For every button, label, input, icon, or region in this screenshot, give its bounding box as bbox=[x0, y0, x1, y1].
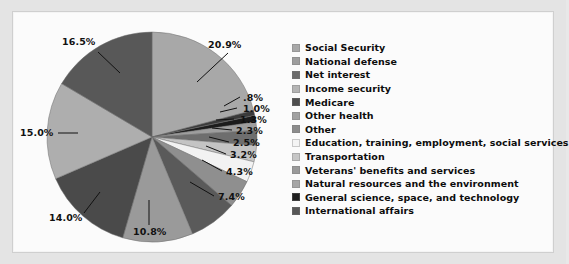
legend-swatch-icon bbox=[292, 85, 300, 93]
legend-swatch-icon bbox=[292, 153, 300, 161]
legend-item-label: International affairs bbox=[305, 205, 414, 216]
legend-item-label: Education, training, employment, social … bbox=[305, 137, 569, 148]
legend-item-label: Social Security bbox=[305, 42, 385, 53]
pie-slice-group bbox=[47, 32, 257, 242]
legend-item-label: Net interest bbox=[305, 69, 370, 80]
legend-swatch-icon bbox=[292, 57, 300, 65]
legend-swatch-icon bbox=[292, 139, 300, 147]
legend-swatch-icon bbox=[292, 193, 300, 201]
pie-label-other-health: 7.4% bbox=[218, 191, 245, 202]
pie-label-general-science: 1.0% bbox=[243, 103, 270, 114]
pie-label-net-interest: 15.0% bbox=[20, 127, 53, 138]
legend-item[interactable]: Education, training, employment, social … bbox=[292, 136, 542, 150]
legend-item[interactable]: Veterans' benefits and services bbox=[292, 163, 542, 177]
legend-item[interactable]: National defense bbox=[292, 55, 542, 69]
legend-item[interactable]: Net interest bbox=[292, 68, 542, 82]
pie-label-international-affairs: .8% bbox=[243, 92, 263, 103]
legend-item-label: Other bbox=[305, 124, 336, 135]
legend-item[interactable]: Transportation bbox=[292, 150, 542, 164]
legend-item[interactable]: Social Security bbox=[292, 41, 542, 55]
legend-item-label: Medicare bbox=[305, 97, 355, 108]
legend-item-label: National defense bbox=[305, 56, 397, 67]
pie-label-veterans: 2.3% bbox=[236, 125, 263, 136]
legend-swatch-icon bbox=[292, 71, 300, 79]
pie-label-education: 3.2% bbox=[230, 149, 257, 160]
legend-item-label: Other health bbox=[305, 110, 374, 121]
legend-item[interactable]: Natural resources and the environment bbox=[292, 177, 542, 191]
legend-swatch-icon bbox=[292, 112, 300, 120]
legend-item-label: Transportation bbox=[305, 151, 385, 162]
pie-label-other: 4.3% bbox=[226, 166, 253, 177]
legend-swatch-icon bbox=[292, 125, 300, 133]
pie-label-transportation: 2.5% bbox=[233, 137, 260, 148]
pie-label-national-defense: 16.5% bbox=[62, 36, 95, 47]
legend-item-label: Natural resources and the environment bbox=[305, 178, 519, 189]
legend-item[interactable]: Income security bbox=[292, 82, 542, 96]
legend-item-label: Veterans' benefits and services bbox=[305, 165, 475, 176]
legend-swatch-icon bbox=[292, 180, 300, 188]
legend-item[interactable]: International affairs bbox=[292, 204, 542, 218]
legend-item[interactable]: Other bbox=[292, 123, 542, 137]
legend-swatch-icon bbox=[292, 207, 300, 215]
legend-item-label: Income security bbox=[305, 83, 391, 94]
legend-item[interactable]: Other health bbox=[292, 109, 542, 123]
pie-label-natural-resources: 1.3% bbox=[240, 114, 267, 125]
pie-label-income-security: 14.0% bbox=[49, 212, 82, 223]
legend-swatch-icon bbox=[292, 166, 300, 174]
legend-swatch-icon bbox=[292, 98, 300, 106]
legend: Social SecurityNational defenseNet inter… bbox=[292, 41, 542, 218]
legend-item[interactable]: General science, space, and technology bbox=[292, 191, 542, 205]
legend-item[interactable]: Medicare bbox=[292, 95, 542, 109]
legend-swatch-icon bbox=[292, 44, 300, 52]
pie-label-social-security: 20.9% bbox=[208, 39, 241, 50]
legend-item-label: General science, space, and technology bbox=[305, 192, 519, 203]
pie-label-medicare: 10.8% bbox=[133, 226, 166, 237]
